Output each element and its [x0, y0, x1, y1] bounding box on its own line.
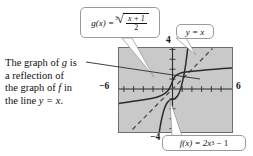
fraction-denominator: 2	[132, 24, 140, 32]
radical-sign: √	[117, 13, 124, 24]
callout-identity-line: y = x	[176, 24, 214, 39]
desc-l1c: is	[67, 57, 77, 68]
radicand: x + 1 2	[123, 13, 149, 32]
description-line-2: a reflection of	[5, 70, 101, 83]
callout-g-function: g(x) = 3 √ x + 1 2	[80, 7, 160, 38]
description-line-1: The graph of g is	[5, 57, 101, 70]
description-text: The graph of g is a reflection of the gr…	[5, 57, 101, 107]
desc-l3c: in	[61, 82, 72, 93]
identity-line-label: y = x	[186, 27, 205, 37]
fraction: x + 1 2	[126, 15, 147, 32]
desc-l4c: .	[60, 95, 63, 106]
plot-area	[118, 47, 233, 133]
cube-root-symbol: 3 √ x + 1 2	[114, 13, 149, 32]
g-lhs: g(x) =	[91, 18, 114, 28]
axes	[119, 48, 232, 132]
f-lhs: f(x) = 2x	[180, 138, 212, 148]
x-axis-max-label: 6	[236, 82, 241, 92]
desc-l1a: The graph of	[5, 57, 62, 68]
figure-root: −6 6 4 −4 g(x) = 3 √ x + 1 2 y = x f(	[0, 0, 253, 156]
description-line-4: the line y = x.	[5, 95, 101, 108]
plot-canvas	[119, 48, 232, 132]
y-axis-max-label: 4	[166, 36, 171, 46]
curve-f	[159, 48, 188, 132]
f-rhs: − 1	[216, 138, 228, 148]
y-axis-min-label: −4	[150, 133, 160, 143]
description-line-3: the graph of f in	[5, 82, 101, 95]
desc-l4b: y = x	[39, 95, 61, 106]
callout-f-function: f(x) = 2x3− 1	[162, 135, 246, 151]
desc-l3a: the graph of	[5, 82, 58, 93]
desc-l4a: the line	[5, 95, 39, 106]
